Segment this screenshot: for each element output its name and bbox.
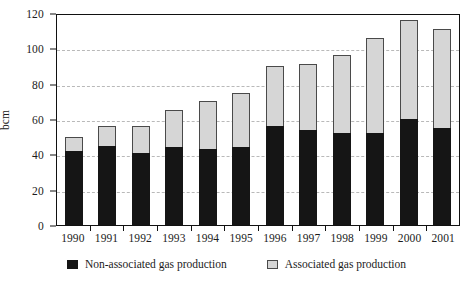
x-axis-tick-label: 1999 (359, 232, 393, 244)
bar-segment-non-associated (366, 133, 384, 225)
bar-segment-associated (333, 55, 351, 133)
bar-column (132, 15, 150, 225)
x-axis-labels: 1990199119921993199419951996199719981999… (56, 232, 460, 244)
y-axis-tick-label: 20 (32, 185, 44, 197)
bar-segment-associated (199, 101, 217, 149)
bar-column (299, 15, 317, 225)
y-axis-tick-label: 40 (32, 149, 44, 161)
x-axis-tickmark (191, 226, 192, 231)
x-axis-tickmark (224, 226, 225, 231)
x-axis-tick-label: 1994 (191, 232, 225, 244)
bar-segment-non-associated (232, 147, 250, 225)
bar-segment-associated (266, 66, 284, 126)
bar-segment-non-associated (400, 119, 418, 225)
x-axis-tickmark (325, 226, 326, 231)
bar-column (165, 15, 183, 225)
x-axis-tickmark (426, 226, 427, 231)
x-axis-tickmark (90, 226, 91, 231)
bar-segment-associated (165, 110, 183, 147)
x-axis-tickmark (359, 226, 360, 231)
x-axis-tick-label: 1995 (224, 232, 258, 244)
bar-column (98, 15, 116, 225)
bars-layer (57, 15, 459, 225)
x-axis-tick-label: 2001 (426, 232, 460, 244)
bar-segment-non-associated (132, 153, 150, 225)
bar-segment-non-associated (65, 151, 83, 225)
y-axis-tick-label: 0 (38, 220, 44, 232)
bar-column (65, 15, 83, 225)
bar-segment-non-associated (433, 128, 451, 225)
x-axis-tickmark (123, 226, 124, 231)
bar-segment-non-associated (299, 130, 317, 225)
bar-segment-non-associated (333, 133, 351, 225)
bar-segment-non-associated (266, 126, 284, 225)
x-axis-tick-label: 1997 (292, 232, 326, 244)
legend-item-associated: Associated gas production (267, 258, 406, 270)
legend-item-non-associated: Non-associated gas production (67, 258, 227, 270)
black-square-swatch-icon (67, 260, 78, 269)
bar-column (232, 15, 250, 225)
bar-segment-associated (232, 93, 250, 148)
x-axis-tick-label: 1996 (258, 232, 292, 244)
chart-legend: Non-associated gas production Associated… (0, 258, 473, 270)
legend-label-non-associated: Non-associated gas production (85, 258, 227, 270)
y-axis: 020406080100120 (0, 0, 56, 240)
y-axis-tick-label: 80 (32, 79, 44, 91)
bar-segment-associated (65, 137, 83, 151)
bar-segment-non-associated (199, 149, 217, 225)
x-axis-tick-label: 1998 (325, 232, 359, 244)
y-axis-tick-label: 120 (26, 8, 44, 20)
bar-segment-associated (98, 126, 116, 145)
x-axis-tickmark (258, 226, 259, 231)
bar-segment-associated (400, 20, 418, 119)
bar-column (333, 15, 351, 225)
legend-label-associated: Associated gas production (285, 258, 406, 270)
bar-segment-non-associated (98, 146, 116, 226)
bar-segment-non-associated (165, 147, 183, 225)
x-axis-tick-label: 2000 (393, 232, 427, 244)
y-axis-tick-label: 60 (32, 114, 44, 126)
bar-column (366, 15, 384, 225)
x-axis-tick-label: 1992 (123, 232, 157, 244)
grey-square-swatch-icon (267, 260, 278, 269)
x-axis-tick-label: 1990 (56, 232, 90, 244)
plot-area (56, 14, 460, 226)
x-axis-tickmark (393, 226, 394, 231)
bar-column (400, 15, 418, 225)
bar-segment-associated (299, 64, 317, 129)
bar-segment-associated (132, 126, 150, 153)
bar-column (433, 15, 451, 225)
figure-container: bcm 020406080100120 19901991199219931994… (0, 0, 473, 294)
bar-segment-associated (433, 29, 451, 128)
bar-column (266, 15, 284, 225)
x-axis-tick-label: 1991 (90, 232, 124, 244)
bar-column (199, 15, 217, 225)
x-axis-tickmark (292, 226, 293, 231)
y-axis-tick-label: 100 (26, 43, 44, 55)
x-axis-tick-label: 1993 (157, 232, 191, 244)
x-axis-tickmark (157, 226, 158, 231)
bar-segment-associated (366, 38, 384, 133)
